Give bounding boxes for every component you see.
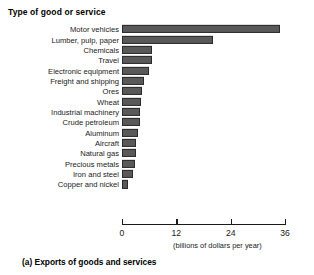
- bar-row: Iron and steel: [0, 169, 314, 179]
- bar: [122, 56, 152, 64]
- bar-row: Precious metals: [0, 158, 314, 168]
- y-axis-title: Type of good or service: [8, 7, 106, 17]
- category-label: Ores: [103, 87, 119, 96]
- x-axis-tick-label: 24: [226, 228, 236, 238]
- category-label: Electronic equipment: [48, 66, 119, 75]
- bar: [122, 87, 142, 95]
- category-label: Iron and steel: [73, 169, 119, 178]
- bar: [122, 180, 128, 188]
- x-axis-line: [122, 224, 286, 225]
- category-label: Copper and nickel: [58, 180, 119, 189]
- figure-caption: (a) Exports of goods and services: [22, 257, 157, 267]
- plot-area: Motor vehiclesLumber, pulp, paperChemica…: [0, 24, 314, 220]
- exports-bar-chart-figure: Type of good or service Motor vehiclesLu…: [0, 0, 314, 275]
- x-axis-tick: [122, 219, 123, 225]
- x-axis-tick-label: 12: [172, 228, 182, 238]
- bar: [122, 170, 133, 178]
- bar-row: Copper and nickel: [0, 179, 314, 189]
- category-label: Motor vehicles: [70, 25, 119, 34]
- category-label: Industrial machinery: [51, 107, 119, 116]
- x-axis-tick-label: 36: [280, 228, 290, 238]
- bar-row: Freight and shipping: [0, 76, 314, 86]
- bar: [122, 118, 140, 126]
- x-axis-tick: [285, 219, 286, 225]
- bar: [122, 160, 135, 168]
- x-axis-tick: [231, 219, 232, 225]
- bar: [122, 149, 136, 157]
- bar-row: Natural gas: [0, 148, 314, 158]
- x-axis-unit-label: (billions of dollars per year): [173, 241, 262, 250]
- category-label: Crude petroleum: [62, 118, 119, 127]
- category-label: Precious metals: [65, 159, 119, 168]
- category-label: Freight and shipping: [50, 76, 119, 85]
- bar: [122, 108, 140, 116]
- category-label: Wheat: [97, 97, 119, 106]
- bar-row: Aircraft: [0, 138, 314, 148]
- bar: [122, 66, 149, 74]
- bar: [122, 25, 280, 33]
- bar: [122, 35, 213, 43]
- category-label: Aircraft: [95, 138, 119, 147]
- bar-row: Aluminum: [0, 127, 314, 137]
- bar-row: Ores: [0, 86, 314, 96]
- bar: [122, 97, 141, 105]
- category-label: Travel: [98, 56, 119, 65]
- bar: [122, 129, 138, 137]
- bar-row: Industrial machinery: [0, 107, 314, 117]
- x-axis-tick: [176, 219, 177, 225]
- bar-row: Lumber, pulp, paper: [0, 34, 314, 44]
- category-label: Chemicals: [84, 45, 119, 54]
- bar: [122, 77, 144, 85]
- bar: [122, 139, 136, 147]
- bar-row: Wheat: [0, 96, 314, 106]
- category-label: Lumber, pulp, paper: [51, 35, 119, 44]
- bar: [122, 46, 152, 54]
- category-label: Aluminum: [85, 128, 119, 137]
- bar-row: Crude petroleum: [0, 117, 314, 127]
- x-axis-tick-label: 0: [120, 228, 125, 238]
- category-label: Natural gas: [80, 149, 119, 158]
- bar-row: Travel: [0, 55, 314, 65]
- bar-row: Motor vehicles: [0, 24, 314, 34]
- bar-row: Electronic equipment: [0, 65, 314, 75]
- bar-row: Chemicals: [0, 45, 314, 55]
